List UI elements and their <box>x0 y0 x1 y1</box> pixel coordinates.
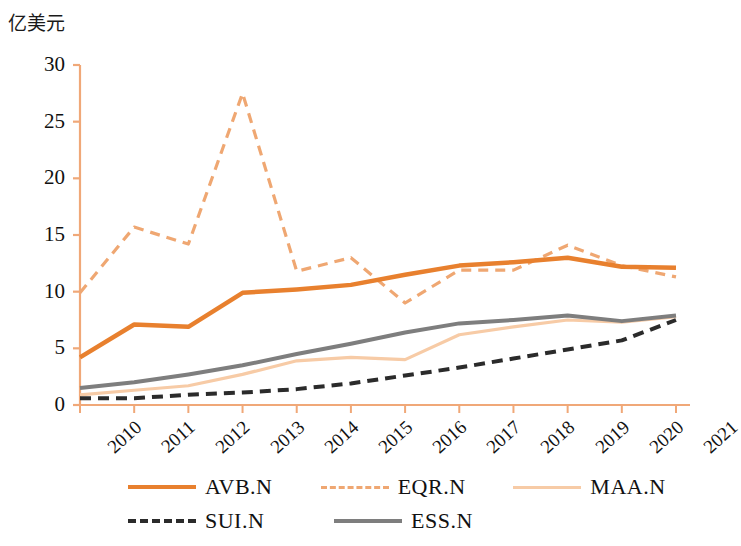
y-axis-tick-label: 15 <box>25 224 65 245</box>
y-axis-tick-label: 5 <box>25 337 65 358</box>
legend-label: MAA.N <box>590 476 665 498</box>
chart-legend: AVB.NEQR.NMAA.NSUI.NESS.N <box>0 470 706 538</box>
legend-label: AVB.N <box>205 476 273 498</box>
series-line-eqr-n <box>80 93 676 303</box>
legend-row: SUI.NESS.N <box>0 504 706 538</box>
series-line-maa-n <box>80 317 676 395</box>
legend-label: SUI.N <box>205 510 264 532</box>
series-line-avb-n <box>80 258 676 358</box>
legend-item-maa-n[interactable]: MAA.N <box>513 476 706 498</box>
legend-swatch-sui-n <box>128 519 196 523</box>
legend-label: EQR.N <box>398 476 466 498</box>
y-axis-tick-label: 0 <box>25 394 65 415</box>
y-axis-tick-label: 20 <box>25 167 65 188</box>
legend-label: ESS.N <box>411 510 473 532</box>
legend-item-ess-n[interactable]: ESS.N <box>334 510 540 532</box>
legend-item-eqr-n[interactable]: EQR.N <box>321 476 514 498</box>
legend-swatch-eqr-n <box>321 486 389 489</box>
y-axis-tick-label: 30 <box>25 54 65 75</box>
legend-swatch-avb-n <box>128 485 196 489</box>
legend-swatch-maa-n <box>513 486 581 489</box>
legend-item-avb-n[interactable]: AVB.N <box>128 476 321 498</box>
y-axis-tick-label: 25 <box>25 111 65 132</box>
legend-item-sui-n[interactable]: SUI.N <box>128 510 334 532</box>
y-axis-tick-label: 10 <box>25 281 65 302</box>
legend-swatch-ess-n <box>334 519 402 523</box>
legend-row: AVB.NEQR.NMAA.N <box>0 470 706 504</box>
